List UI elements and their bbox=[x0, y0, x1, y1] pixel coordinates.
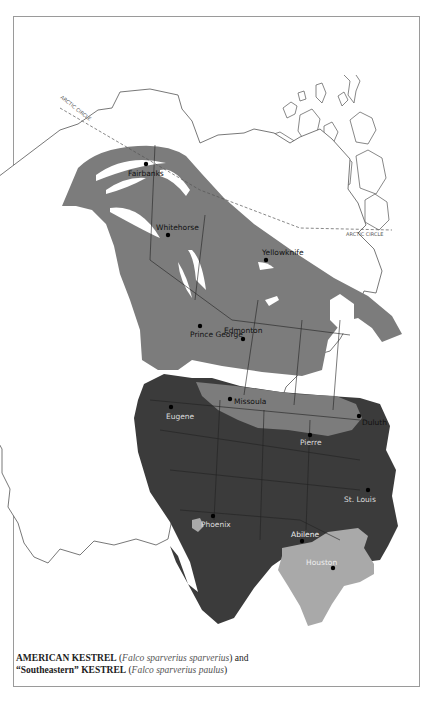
city-label-houston: Houston bbox=[306, 558, 337, 567]
city-dot-edmonton bbox=[241, 337, 245, 341]
map-caption: AMERICAN KESTREL (Falco sparverius sparv… bbox=[16, 652, 249, 676]
city-label-phoenix: Phoenix bbox=[201, 520, 231, 529]
caption-species-name: AMERICAN KESTREL bbox=[16, 653, 117, 663]
city-dot-st-louis bbox=[366, 488, 370, 492]
caption-conjunction: and bbox=[235, 653, 249, 663]
city-label-eugene: Eugene bbox=[166, 412, 195, 421]
city-dot-duluth bbox=[357, 414, 361, 418]
caption-subspecies-scientific-name: Falco sparverius paulus bbox=[132, 665, 224, 675]
city-label-st-louis: St. Louis bbox=[344, 495, 376, 504]
city-label-pierre: Pierre bbox=[300, 438, 322, 447]
city-label-yellowknife: Yellowknife bbox=[261, 248, 304, 257]
city-label-abilene: Abilene bbox=[291, 530, 319, 539]
city-dot-phoenix bbox=[211, 514, 215, 518]
caption-line-2: “Southeastern” KESTREL (Falco sparverius… bbox=[16, 664, 249, 676]
caption-line-1: AMERICAN KESTREL (Falco sparverius sparv… bbox=[16, 652, 249, 664]
city-label-whitehorse: Whitehorse bbox=[156, 223, 199, 232]
city-dot-eugene bbox=[169, 405, 173, 409]
city-label-missoula: Missoula bbox=[234, 397, 266, 406]
arctic-circle-label-left: ARCTIC CIRCLE bbox=[59, 94, 92, 122]
range-map: ARCTIC CIRCLE ARCTIC CIRCLE Fairbanks Wh… bbox=[0, 0, 443, 709]
caption-scientific-name: Falco sparverius sparverius bbox=[122, 653, 229, 663]
arctic-circle-label-right: ARCTIC CIRCLE bbox=[346, 231, 383, 237]
city-dot-fairbanks bbox=[144, 162, 148, 166]
city-dot-prince-george bbox=[198, 324, 202, 328]
city-label-fairbanks: Fairbanks bbox=[128, 169, 164, 178]
city-label-edmonton: Edmonton bbox=[224, 326, 263, 335]
city-dot-abilene bbox=[300, 539, 304, 543]
city-dot-pierre bbox=[308, 433, 312, 437]
city-label-duluth: Duluth bbox=[362, 418, 387, 427]
city-dot-whitehorse bbox=[166, 233, 170, 237]
city-dot-yellowknife bbox=[264, 258, 268, 262]
caption-subspecies-name: “Southeastern” KESTREL bbox=[16, 665, 126, 675]
city-dot-missoula bbox=[228, 397, 232, 401]
